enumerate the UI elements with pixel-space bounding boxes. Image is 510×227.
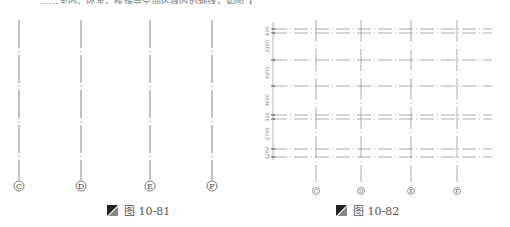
dim-label-3300-a: 3300 [264,40,270,53]
axis-label-d: D [359,188,363,194]
axis-label-c: C [16,182,22,191]
figure-icon [336,205,347,216]
dim-label-600: 600 [264,26,270,36]
axis-label-c: C [314,188,318,194]
axis-label-e: E [409,188,413,194]
axis-line-c [14,20,24,191]
dim-label-2700: 2700 [264,128,270,141]
axis-label-f: F [209,182,215,191]
dimension-labels: 600 3300 3300 3600 300 2700 1200 [264,26,270,159]
axis-label-d: D [78,182,84,191]
vertical-grid-lines [316,20,457,182]
dim-label-3600: 3600 [264,94,270,107]
axis-label-f: F [455,188,459,194]
axis-label-e: E [147,182,153,191]
figure-10-81-labels: C D E F [16,182,215,191]
axis-line-d [76,20,86,191]
figure-10-81 [14,20,217,191]
dim-label-1200: 1200 [264,147,270,160]
dim-label-3300-b: 3300 [264,67,270,80]
axis-line-f [207,20,217,191]
horizontal-grid-lines [273,29,492,157]
figure-10-82 [271,20,492,195]
caption-figure-10-81: 图 10-81 [107,202,170,218]
caption-label: 图 10-81 [124,202,170,218]
caption-label: 图 10-82 [353,202,399,218]
axis-line-e [145,20,155,191]
figure-10-82-bubble-labels: C D E F [314,188,459,194]
drawing-canvas: C D E F [0,0,510,227]
caption-figure-10-82: 图 10-82 [336,202,399,218]
axis-bubbles [313,188,461,195]
dim-label-300: 300 [264,112,270,122]
figure-icon [107,205,118,216]
